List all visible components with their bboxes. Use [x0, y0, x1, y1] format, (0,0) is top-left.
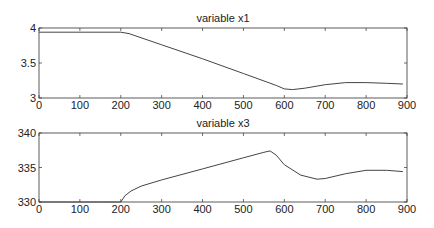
axes-box	[39, 133, 407, 202]
x-tick-label: 200	[112, 203, 130, 215]
plot-title: variable x1	[196, 12, 249, 24]
axes-box	[39, 28, 407, 98]
series-line-x3	[39, 151, 403, 202]
y-tick-label: 3.5	[21, 57, 36, 69]
x-tick-label: 900	[398, 99, 416, 111]
chart-figure: variable x101002003004005006007008009003…	[0, 0, 434, 228]
subplot-1: variable x101002003004005006007008009003…	[21, 12, 416, 111]
y-tick-label: 335	[18, 162, 36, 174]
x-tick-label: 900	[398, 203, 416, 215]
x-tick-label: 300	[152, 203, 170, 215]
y-tick-label: 3	[30, 92, 36, 104]
x-tick-label: 800	[357, 203, 375, 215]
x-tick-label: 300	[152, 99, 170, 111]
x-tick-label: 600	[275, 203, 293, 215]
x-tick-label: 600	[275, 99, 293, 111]
x-tick-label: 700	[316, 203, 334, 215]
x-tick-label: 500	[234, 203, 252, 215]
series-line-x1	[39, 32, 403, 89]
x-tick-label: 100	[71, 99, 89, 111]
subplot-2: variable x301002003004005006007008009003…	[18, 117, 417, 215]
x-tick-label: 0	[36, 203, 42, 215]
plot-title: variable x3	[196, 117, 249, 129]
x-tick-label: 100	[71, 203, 89, 215]
x-tick-label: 400	[193, 99, 211, 111]
x-tick-label: 400	[193, 203, 211, 215]
x-tick-label: 700	[316, 99, 334, 111]
x-tick-label: 800	[357, 99, 375, 111]
y-tick-label: 4	[30, 22, 36, 34]
x-tick-label: 500	[234, 99, 252, 111]
y-tick-label: 340	[18, 127, 36, 139]
x-tick-label: 0	[36, 99, 42, 111]
y-tick-label: 330	[18, 196, 36, 208]
x-tick-label: 200	[112, 99, 130, 111]
